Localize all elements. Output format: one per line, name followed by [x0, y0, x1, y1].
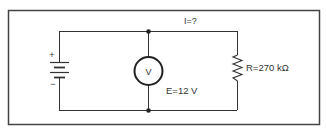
resistor-label: R=270 kΩ — [246, 62, 289, 73]
battery-plus-label: + — [49, 50, 54, 60]
current-label: I=? — [184, 16, 197, 26]
voltmeter-symbol: V — [145, 67, 151, 77]
battery-icon — [50, 63, 69, 78]
resistor-icon — [233, 55, 242, 81]
junction-dot-top — [146, 29, 151, 34]
circuit-diagram: + − V I=? E=12 V R=270 kΩ — [0, 0, 326, 131]
source-voltage-label: E=12 V — [166, 85, 198, 96]
junction-dot-bottom — [146, 108, 151, 113]
battery-minus-label: − — [50, 79, 55, 89]
